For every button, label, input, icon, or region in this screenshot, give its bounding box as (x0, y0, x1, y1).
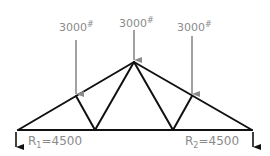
load-label-right: 3000# (177, 20, 212, 34)
web-member (173, 96, 192, 130)
web-member (95, 62, 134, 130)
web-member (76, 96, 95, 130)
reaction-label-left: R1=4500 (28, 134, 82, 150)
load-label-center: 3000# (119, 16, 154, 30)
load-label-left: 3000# (59, 20, 94, 34)
reaction-label-right: R2=4500 (185, 134, 239, 150)
truss-diagram: 3000# 3000# 3000# R1=4500 R2=4500 (0, 0, 270, 156)
truss-members (18, 62, 252, 130)
